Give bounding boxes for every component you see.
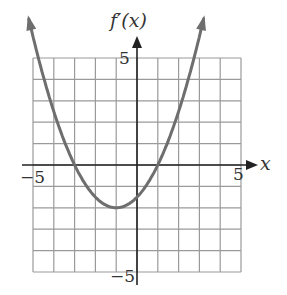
y-axis-arrow-icon (132, 36, 142, 48)
curve-arrow-icon (196, 15, 206, 31)
derivative-graph: f′(x) x −5 5 5 −5 (0, 0, 287, 295)
curve-arrow-icon (26, 15, 36, 31)
y-axis-label: f′(x) (108, 9, 147, 31)
axes (22, 36, 258, 285)
x-min-tick-label: −5 (20, 167, 45, 187)
x-axis-arrow-icon (246, 160, 258, 170)
x-axis-label: x (260, 152, 271, 174)
y-max-tick-label: 5 (119, 48, 130, 68)
y-min-tick-label: −5 (110, 266, 135, 286)
x-max-tick-label: 5 (233, 164, 244, 184)
